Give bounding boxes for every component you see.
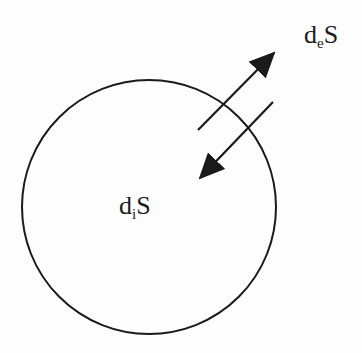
label-base: d	[304, 20, 317, 49]
label-subscript: e	[317, 35, 324, 51]
label-base: d	[119, 191, 132, 220]
label-tail: S	[324, 20, 338, 49]
entropy-diagram: deS diS	[0, 0, 362, 353]
label-tail: S	[136, 191, 150, 220]
inward-exchange-arrow	[200, 102, 273, 178]
outward-exchange-arrow	[198, 53, 274, 130]
exchange-entropy-label: deS	[304, 22, 338, 51]
diagram-graphics	[0, 0, 362, 353]
internal-entropy-label: diS	[119, 193, 151, 222]
